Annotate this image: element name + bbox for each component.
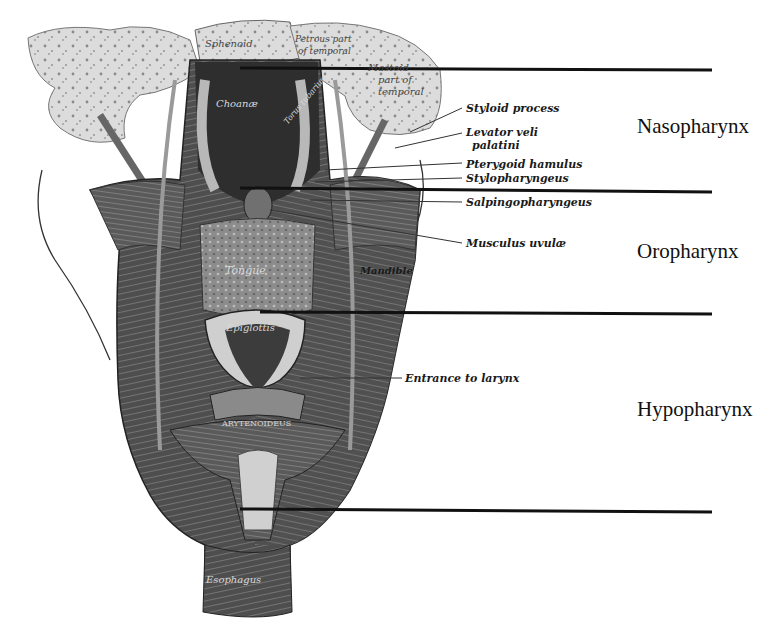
anno-salpingopharyngeus: Salpingopharyngeus	[466, 196, 592, 209]
label-mastoid-3: temporal	[378, 86, 424, 97]
label-petrous-1: Petrous part	[295, 34, 352, 44]
label-arytenoideus: ARYTENOIDEUS	[222, 419, 291, 428]
division-line-oro-hypo	[260, 312, 712, 314]
label-epiglottis: Epiglottis	[226, 322, 275, 333]
anno-pterygoid-hamulus: Pterygoid hamulus	[466, 158, 582, 171]
anno-entrance-to-larynx: Entrance to larynx	[405, 372, 519, 385]
anno-stylopharyngeus: Stylopharyngeus	[466, 172, 569, 185]
region-label-nasopharynx: Nasopharynx	[637, 114, 749, 139]
label-sphenoid: Sphenoid	[205, 38, 253, 49]
region-label-oropharynx: Oropharynx	[637, 239, 738, 264]
anno-styloid-process: Styloid process	[466, 102, 560, 115]
arytenoid-folds	[210, 388, 305, 421]
division-line-top	[240, 68, 712, 70]
anno-musculus-uvulae: Musculus uvulæ	[466, 237, 566, 250]
label-petrous-2: of temporal	[298, 46, 351, 56]
cricoid-center	[238, 450, 278, 530]
anno-levator-veli-2: palatini	[472, 139, 520, 152]
uvula	[244, 187, 272, 223]
left-wing	[90, 181, 185, 250]
label-esophagus: Esophagus	[206, 574, 261, 585]
label-tongue: Tongue	[225, 264, 266, 277]
label-mastoid-1: Mastoid	[368, 62, 409, 73]
region-label-hypopharynx: Hypopharynx	[637, 397, 752, 422]
label-choanae: Choanæ	[216, 98, 258, 109]
label-mastoid-2: part of	[378, 74, 412, 85]
anno-levator-veli-1: Levator veli	[466, 126, 538, 139]
pharynx-diagram: Sphenoid Petrous part of temporal Mastoi…	[0, 0, 784, 628]
anno-mandible: Mandible	[360, 264, 413, 277]
